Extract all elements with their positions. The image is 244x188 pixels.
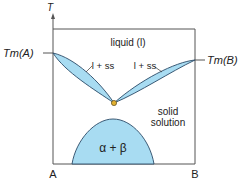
solid-solution-label-line1: solid [158,106,179,117]
solid-solution-label-line2: solution [151,117,185,128]
liquid-label: liquid (l) [110,37,145,48]
tm-b-label: Tm(B) [207,54,238,66]
y-axis-label: T [47,2,54,13]
l-ss-left-label: l + ss [92,60,115,71]
alpha-beta-label: α + β [99,141,127,155]
tm-a-label: Tm(A) [3,47,34,59]
congruent-minimum-point [111,100,116,105]
l-ss-right-label: l + ss [134,60,157,71]
x-right-label: B [191,168,198,180]
x-left-label: A [49,168,57,180]
y-axis-arrow-icon [51,13,55,19]
phase-diagram: T Tm(A) Tm(B) liquid (l) l + ss l + ss s… [0,0,244,188]
